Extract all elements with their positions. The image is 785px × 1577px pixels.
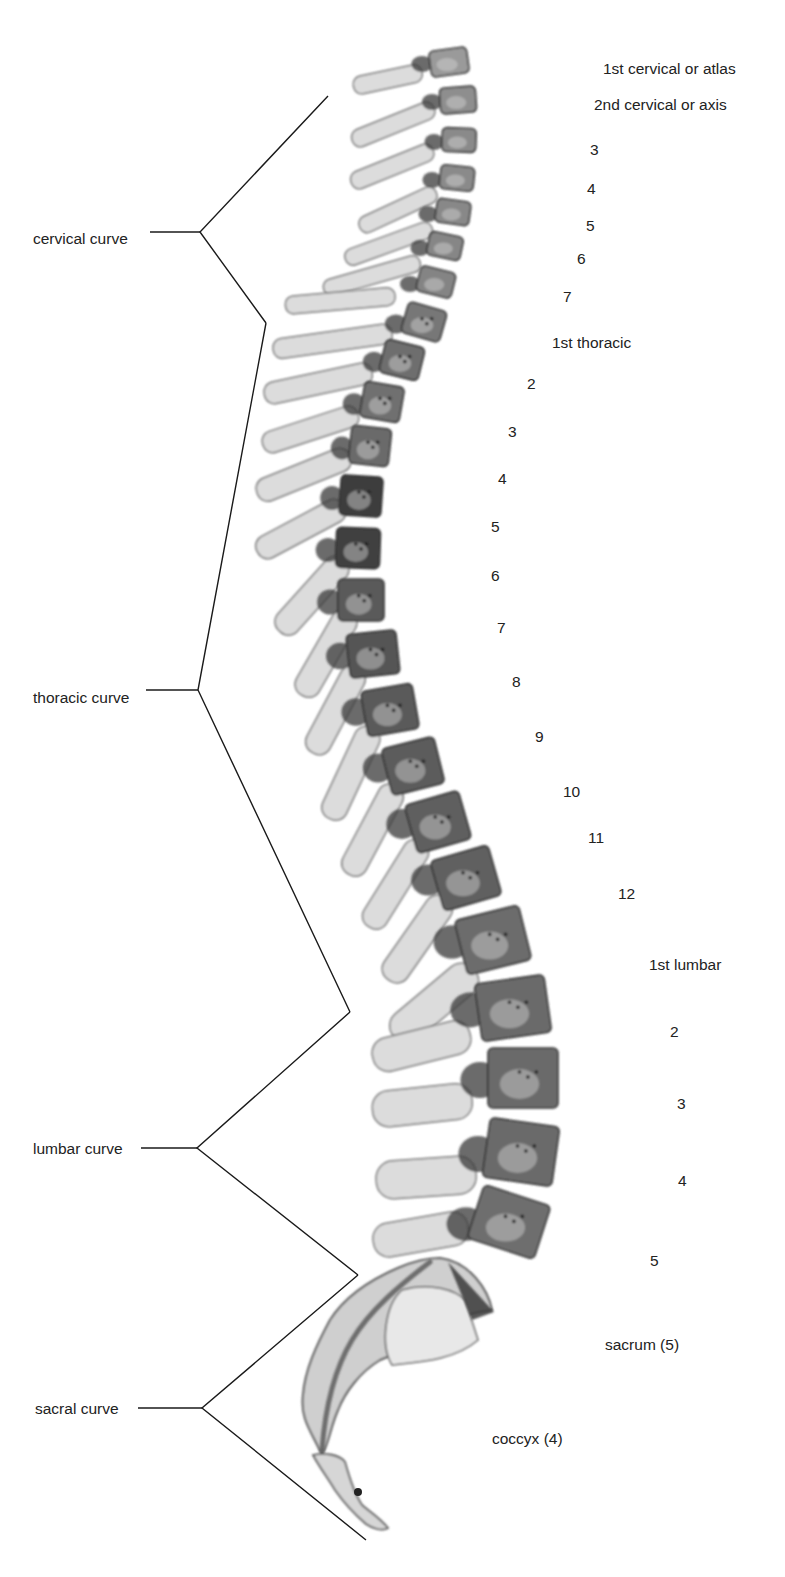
sacrum-and-coccyx [303, 1258, 494, 1530]
vertebra-lumbar [375, 1117, 560, 1200]
label-sacrum: sacrum (5) [605, 1337, 679, 1353]
label-t3: 3 [508, 424, 517, 440]
label-c5: 5 [586, 218, 595, 234]
label-t1: 1st thoracic [552, 335, 631, 351]
sacral-curve-label: sacral curve [35, 1401, 119, 1417]
coccyx-shape [313, 1454, 388, 1530]
spine-diagram: cervical curve thoracic curve lumbar cur… [0, 0, 785, 1577]
label-l2: 2 [670, 1024, 679, 1040]
coccyx-dark-spot [354, 1488, 362, 1496]
label-l4: 4 [678, 1173, 687, 1189]
bracket-lumbar [197, 1012, 358, 1275]
label-t4: 4 [498, 471, 507, 487]
label-t9: 9 [535, 729, 544, 745]
lumbar-curve-label: lumbar curve [33, 1141, 123, 1157]
label-t7: 7 [497, 620, 506, 636]
label-c3: 3 [590, 142, 599, 158]
label-c4: 4 [587, 181, 596, 197]
label-l5: 5 [650, 1253, 659, 1269]
label-c7: 7 [563, 289, 572, 305]
label-axis: 2nd cervical or axis [594, 97, 727, 113]
vertebrae [252, 46, 560, 1259]
label-t8: 8 [512, 674, 521, 690]
label-coccyx: coccyx (4) [492, 1431, 563, 1447]
label-atlas: 1st cervical or atlas [603, 61, 736, 77]
label-t11: 11 [588, 830, 604, 846]
label-l3: 3 [677, 1096, 686, 1112]
label-t2: 2 [527, 376, 536, 392]
label-t10: 10 [563, 784, 580, 800]
label-c6: 6 [577, 251, 586, 267]
cervical-curve-label: cervical curve [33, 231, 128, 247]
label-t6: 6 [491, 568, 500, 584]
label-l1: 1st lumbar [649, 957, 721, 973]
thoracic-curve-label: thoracic curve [33, 690, 129, 706]
label-t5: 5 [491, 519, 500, 535]
bracket-cervical [200, 96, 328, 323]
label-t12: 12 [618, 886, 635, 902]
